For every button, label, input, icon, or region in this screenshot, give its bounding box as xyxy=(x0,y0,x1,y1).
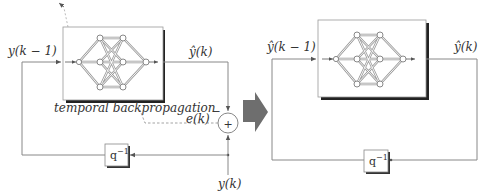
left-output-label: ŷ(k) xyxy=(188,45,213,59)
block-arrow-right-icon xyxy=(243,92,268,132)
neural-network-training-diagram: + − q−1 y(k − 1) ŷ(k) temporal backpropa… xyxy=(0,0,493,193)
left-system: + − q−1 y(k − 1) ŷ(k) temporal backpropa… xyxy=(7,3,242,191)
error-label: e(k) xyxy=(186,112,210,126)
backprop-arrow-tip xyxy=(59,3,64,7)
left-input-label: y(k − 1) xyxy=(7,44,57,58)
right-input-label: ŷ(k − 1) xyxy=(266,40,316,54)
sum-symbol: + xyxy=(223,118,232,131)
right-system: q−1 ŷ(k − 1) ŷ(k) xyxy=(266,20,478,174)
right-output-label: ŷ(k) xyxy=(453,40,478,54)
target-label: y(k) xyxy=(217,177,242,191)
